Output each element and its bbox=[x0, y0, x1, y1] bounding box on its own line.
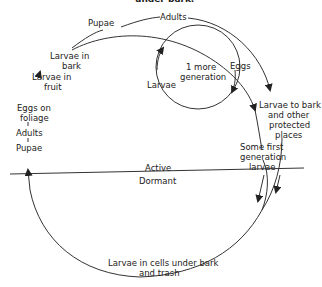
label-pupae-left: Pupae bbox=[16, 143, 42, 153]
label-one-more-2: generation bbox=[180, 72, 226, 82]
label-larvae-in-fruit-2: fruit bbox=[44, 82, 62, 92]
label-larvae-to-bark-1: Larvae to bark bbox=[259, 100, 321, 110]
label-larvae-to-bark-4: places bbox=[275, 130, 302, 140]
label-cells-2: and trash bbox=[139, 268, 180, 278]
label-pupae-top: Pupae bbox=[88, 18, 114, 28]
label-dormant: Dormant bbox=[139, 176, 176, 186]
label-some-first-2: generation bbox=[240, 152, 286, 162]
label-adults-top: Adults bbox=[160, 12, 187, 22]
label-some-first-1: Some first bbox=[240, 142, 283, 152]
label-larvae-in-bark-1: Larvae in bbox=[50, 51, 89, 61]
label-larvae-loop: Larvae bbox=[147, 80, 176, 90]
label-eggs-on-foliage-2: foliage bbox=[20, 113, 49, 123]
label-active: Active bbox=[145, 163, 171, 173]
label-some-first-3: larvae bbox=[249, 162, 276, 172]
label-larvae-to-bark-2: and other bbox=[268, 110, 309, 120]
label-adults-left: Adults bbox=[16, 128, 43, 138]
label-larvae-to-bark-3: protected bbox=[269, 120, 310, 130]
label-larvae-in-fruit-1: Larvae in bbox=[32, 72, 71, 82]
label-eggs-on-foliage-1: Eggs on bbox=[17, 103, 51, 113]
label-cells-1: Larvae in cells under bark bbox=[108, 258, 218, 268]
label-eggs: Eggs bbox=[230, 61, 251, 71]
label-larvae-in-bark-2: bark bbox=[62, 61, 81, 71]
label-one-more-1: 1 more bbox=[186, 62, 216, 72]
